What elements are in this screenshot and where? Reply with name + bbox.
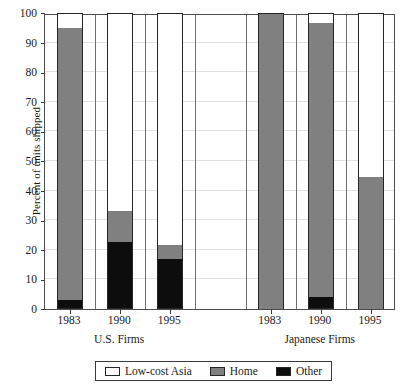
- y-axis-tick-label: 100: [20, 7, 37, 19]
- group-label-u-s-firms: U.S. Firms: [94, 333, 144, 345]
- horizontal-gridline: [45, 130, 394, 131]
- gray-swatch-icon: [210, 367, 225, 376]
- y-axis-tick-mark: [41, 73, 45, 74]
- y-axis-tick: 60: [26, 125, 46, 137]
- y-axis-tick-label: 0: [31, 303, 37, 315]
- bar-segment-low-cost-asia: [358, 13, 384, 177]
- horizontal-gridline: [45, 249, 394, 250]
- x-axis-label-japanese-firms-1983: 1983: [258, 314, 281, 326]
- black-swatch-icon: [276, 367, 291, 376]
- plot-inner: 0102030405060708090100: [45, 15, 394, 309]
- vertical-gridline: [145, 15, 146, 309]
- bar-segment-other: [157, 259, 183, 309]
- y-axis-tick-mark: [41, 309, 45, 310]
- vertical-gridline: [296, 15, 297, 309]
- bar-segment-home: [107, 211, 133, 242]
- horizontal-gridline: [45, 42, 394, 43]
- vertical-gridline: [95, 15, 96, 309]
- bar-1995: [358, 13, 384, 309]
- legend-item-other[interactable]: Other: [276, 365, 322, 377]
- y-axis-tick-mark: [41, 132, 45, 133]
- x-axis-label-japanese-firms-1995: 1995: [358, 314, 381, 326]
- y-axis-tick-label: 50: [26, 155, 38, 167]
- bar-segment-low-cost-asia: [107, 13, 133, 211]
- horizontal-gridline: [45, 160, 394, 161]
- y-axis-tick-mark: [41, 13, 45, 14]
- bar-1990: [107, 13, 133, 309]
- bar-1983: [57, 13, 83, 309]
- bar-segment-other: [57, 300, 83, 309]
- y-axis-tick: 90: [26, 37, 46, 49]
- y-axis-tick-label: 20: [26, 244, 38, 256]
- y-axis-tick: 10: [26, 273, 46, 285]
- y-axis-tick: 0: [31, 303, 45, 315]
- bar-segment-low-cost-asia: [157, 13, 183, 245]
- x-axis-label-u-s-firms-1995: 1995: [158, 314, 181, 326]
- horizontal-gridline: [45, 71, 394, 72]
- y-axis-tick: 20: [26, 244, 46, 256]
- legend-item-low-cost-asia[interactable]: Low-cost Asia: [105, 365, 192, 377]
- vertical-gridline: [246, 15, 247, 309]
- horizontal-gridline: [45, 190, 394, 191]
- legend-label: Home: [230, 365, 258, 377]
- bar-segment-low-cost-asia: [57, 13, 83, 28]
- horizontal-gridline: [45, 278, 394, 279]
- bar-segment-low-cost-asia: [308, 13, 334, 23]
- bar-segment-home: [358, 177, 384, 309]
- horizontal-gridline: [45, 219, 394, 220]
- vertical-gridline: [195, 15, 196, 309]
- chart-legend: Low-cost AsiaHomeOther: [95, 361, 332, 381]
- y-axis-tick-mark: [41, 43, 45, 44]
- y-axis-tick-mark: [41, 221, 45, 222]
- y-axis-tick-label: 80: [26, 66, 38, 78]
- bar-1995: [157, 13, 183, 309]
- group-label-japanese-firms: Japanese Firms: [284, 333, 355, 345]
- legend-label: Low-cost Asia: [125, 365, 192, 377]
- y-axis-tick-label: 70: [26, 96, 38, 108]
- horizontal-gridline: [45, 101, 394, 102]
- white-swatch-icon: [105, 367, 120, 376]
- legend-item-home[interactable]: Home: [210, 365, 258, 377]
- x-axis-label-japanese-firms-1990: 1990: [308, 314, 331, 326]
- y-axis-tick: 80: [26, 66, 46, 78]
- y-axis-tick: 70: [26, 96, 46, 108]
- y-axis-tick: 100: [20, 7, 45, 19]
- legend-label: Other: [296, 365, 322, 377]
- plot-area: 0102030405060708090100: [44, 14, 395, 310]
- bar-segment-home: [157, 245, 183, 258]
- vertical-gridline: [346, 15, 347, 309]
- x-axis-label-u-s-firms-1990: 1990: [108, 314, 131, 326]
- y-axis-tick-mark: [41, 102, 45, 103]
- y-axis-tick-label: 60: [26, 125, 38, 137]
- y-axis-tick-label: 90: [26, 37, 38, 49]
- y-axis-tick: 40: [26, 185, 46, 197]
- y-axis-tick-mark: [41, 250, 45, 251]
- bar-segment-home: [57, 28, 83, 300]
- bar-segment-other: [107, 242, 133, 309]
- x-axis-label-u-s-firms-1983: 1983: [58, 314, 81, 326]
- bar-1990: [308, 13, 334, 309]
- bar-1983: [258, 13, 284, 309]
- bar-segment-home: [258, 13, 284, 309]
- chart-page: Percent of units shipped 010203040506070…: [0, 0, 405, 391]
- bar-segment-home: [308, 23, 334, 297]
- y-axis-tick-mark: [41, 191, 45, 192]
- y-axis-tick-label: 10: [26, 273, 38, 285]
- y-axis-tick-mark: [41, 280, 45, 281]
- y-axis-tick: 30: [26, 214, 46, 226]
- bar-segment-other: [308, 297, 334, 309]
- y-axis-tick-label: 30: [26, 214, 38, 226]
- y-axis-tick-mark: [41, 161, 45, 162]
- y-axis-tick: 50: [26, 155, 46, 167]
- y-axis-tick-label: 40: [26, 185, 38, 197]
